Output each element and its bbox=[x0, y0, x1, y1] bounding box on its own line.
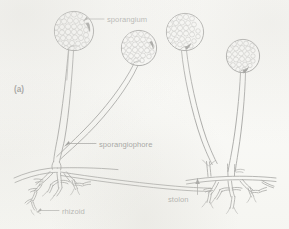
label-sporangiophore: sporangiophore bbox=[99, 140, 152, 149]
sporangium-3 bbox=[165, 13, 203, 50]
figure-panel-a: sporangium sporangiophore rhizoid stolon… bbox=[0, 0, 289, 229]
panel-label: (a) bbox=[14, 85, 24, 94]
label-rhizoid: rhizoid bbox=[62, 207, 85, 216]
leader-rhizoid bbox=[37, 208, 60, 213]
sporangiophore-4 bbox=[228, 73, 246, 172]
label-sporangium: sporangium bbox=[107, 15, 147, 24]
sporangium-4 bbox=[226, 39, 259, 73]
sporangiophore-3 bbox=[182, 51, 218, 165]
rhizoid-cluster-right bbox=[186, 160, 276, 214]
leader-sporangiophore bbox=[64, 141, 96, 147]
stolon bbox=[61, 172, 212, 191]
rhizopus-diagram: sporangium sporangiophore rhizoid stolon… bbox=[0, 0, 289, 229]
sporangium-2 bbox=[120, 30, 156, 65]
sporangiophore-1 bbox=[54, 50, 74, 163]
leader-stolon bbox=[195, 179, 200, 195]
sporangium-1 bbox=[53, 11, 93, 50]
label-stolon: stolon bbox=[168, 195, 189, 204]
